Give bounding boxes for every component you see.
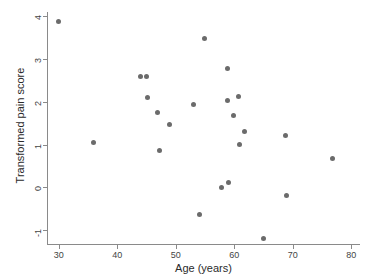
- scatter-point: [144, 74, 149, 79]
- y-tick-label: 4: [33, 15, 43, 53]
- y-tick-mark: [43, 59, 47, 60]
- y-axis-line: [47, 12, 48, 245]
- y-tick-mark: [43, 230, 47, 231]
- x-tick-label: 40: [102, 250, 132, 260]
- scatter-point: [283, 133, 288, 138]
- x-tick-mark: [117, 245, 118, 249]
- scatter-point: [330, 156, 335, 161]
- scatter-point: [91, 140, 96, 145]
- scatter-point: [202, 36, 207, 41]
- scatter-point: [157, 148, 162, 153]
- scatter-point: [219, 185, 224, 190]
- y-axis-title: Transformed pain score: [14, 8, 28, 243]
- scatter-point: [225, 66, 230, 71]
- scatter-point: [167, 122, 172, 127]
- y-tick-mark: [43, 102, 47, 103]
- x-axis-line: [47, 244, 360, 245]
- x-tick-mark: [293, 245, 294, 249]
- scatter-point: [197, 212, 202, 217]
- scatter-point: [155, 110, 160, 115]
- x-tick-mark: [59, 245, 60, 249]
- x-tick-label: 60: [219, 250, 249, 260]
- y-tick-mark: [43, 16, 47, 17]
- y-tick-label: 3: [33, 58, 43, 96]
- scatter-plot-figure: -101234 304050607080 Transformed pain sc…: [0, 0, 384, 278]
- x-axis-title: Age (years): [47, 262, 360, 274]
- x-tick-label: 80: [336, 250, 366, 260]
- scatter-point: [237, 142, 242, 147]
- scatter-point: [226, 180, 231, 185]
- scatter-point: [138, 74, 143, 79]
- x-tick-mark: [234, 245, 235, 249]
- x-tick-label: 50: [161, 250, 191, 260]
- scatter-point: [56, 19, 61, 24]
- scatter-point: [236, 94, 241, 99]
- y-tick-label: 1: [33, 144, 43, 182]
- scatter-point: [225, 98, 230, 103]
- y-tick-mark: [43, 187, 47, 188]
- y-tick-label: 0: [33, 186, 43, 224]
- y-tick-mark: [43, 145, 47, 146]
- x-tick-label: 30: [44, 250, 74, 260]
- scatter-point: [284, 193, 289, 198]
- scatter-point: [231, 113, 236, 118]
- scatter-point: [191, 102, 196, 107]
- scatter-point: [242, 129, 247, 134]
- scatter-point: [261, 236, 266, 241]
- scatter-point: [145, 95, 150, 100]
- y-tick-label: 2: [33, 101, 43, 139]
- x-tick-label: 70: [278, 250, 308, 260]
- x-tick-mark: [351, 245, 352, 249]
- x-tick-mark: [176, 245, 177, 249]
- y-tick-label: -1: [33, 229, 43, 267]
